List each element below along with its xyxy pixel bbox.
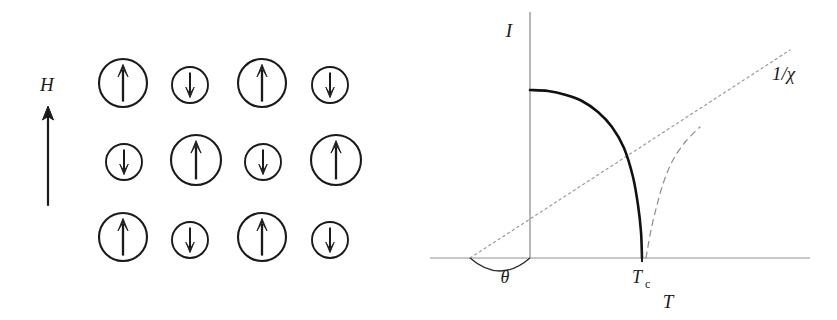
field-label-H: H bbox=[39, 74, 55, 95]
x-axis-label: T bbox=[663, 291, 675, 312]
curie-temperature-symbol: T bbox=[632, 267, 644, 287]
applied-field-indicator: H bbox=[39, 74, 55, 205]
chart-axes bbox=[430, 12, 810, 258]
spin-cell-down-small bbox=[312, 67, 348, 103]
spin-cell-down-small bbox=[106, 144, 142, 180]
inverse-susceptibility-branch bbox=[646, 127, 700, 258]
y-axis-label: I bbox=[505, 20, 514, 41]
inverse-susceptibility-line bbox=[470, 50, 790, 258]
spin-cell-up-large bbox=[99, 59, 147, 107]
spin-cell-up-large bbox=[238, 213, 286, 261]
spin-cell-up-large bbox=[311, 135, 361, 185]
field-arrow-icon bbox=[43, 106, 54, 205]
theta-label: θ bbox=[501, 267, 510, 287]
spin-cell-down-small bbox=[312, 222, 348, 258]
spin-cell-up-large bbox=[238, 59, 286, 107]
spin-lattice-panel: H bbox=[39, 59, 361, 261]
ferrimagnetism-figure: H I T T c θ bbox=[0, 0, 837, 320]
spin-cell-down-small bbox=[172, 67, 208, 103]
spin-cell-up-large bbox=[99, 213, 147, 261]
spin-cell-down-small bbox=[172, 222, 208, 258]
inverse-susceptibility-label: 1/χ bbox=[772, 63, 796, 84]
spin-cell-down-small bbox=[245, 144, 281, 180]
magnetisation-chart-panel: I T T c θ 1/χ bbox=[430, 12, 810, 312]
spin-cell-up-large bbox=[171, 135, 221, 185]
curie-temperature-subscript: c bbox=[645, 277, 650, 291]
spin-cell-group bbox=[99, 59, 361, 261]
spontaneous-magnetisation-curve bbox=[530, 90, 642, 258]
curie-temperature-label: T c bbox=[632, 267, 650, 291]
